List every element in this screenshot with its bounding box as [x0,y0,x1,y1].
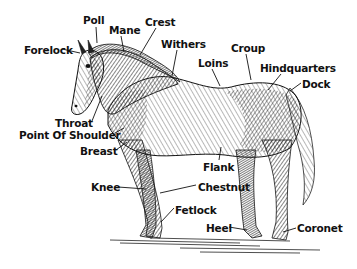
label-flank: Flank [203,161,234,173]
label-coronet: Coronet [297,222,343,234]
ear-left [78,40,86,54]
label-croup: Croup [231,42,265,54]
eye [86,64,91,68]
hind-leg-far [236,150,262,238]
label-forelock: Forelock [24,44,73,56]
label-breast: Breast [80,145,117,157]
label-knee: Knee [91,181,120,193]
horse-anatomy-diagram: Poll Mane Crest Forelock Withers Croup L… [0,0,357,269]
label-point-of-shoulder: Point Of Shoulder [19,129,121,141]
label-mane: Mane [109,24,140,36]
label-loins: Loins [198,57,228,69]
nostril [75,105,78,107]
label-fetlock: Fetlock [175,204,217,216]
label-withers: Withers [161,38,206,50]
ear-right [88,40,94,53]
label-chestnut: Chestnut [198,181,250,193]
label-hindquarters: Hindquarters [260,62,336,74]
label-heel: Heel [206,222,232,234]
ground-shadow [110,238,320,253]
label-throat: Throat [55,117,93,129]
label-poll: Poll [83,14,104,26]
label-dock: Dock [302,78,330,90]
label-crest: Crest [145,16,175,28]
